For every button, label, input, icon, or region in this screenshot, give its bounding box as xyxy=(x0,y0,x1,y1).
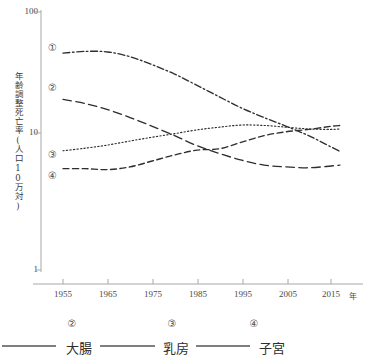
chart-root: 年齢調整死亡率(人口10万対) 100 10 1 1955 1965 1975 … xyxy=(0,0,365,358)
legend-label-colon: 大腸 xyxy=(58,338,100,357)
legend-label-uterus: 子宮 xyxy=(251,338,293,357)
legend-label-breast: 乳房 xyxy=(155,338,197,357)
chart-canvas xyxy=(0,0,365,358)
series-line-2 xyxy=(63,99,340,167)
series-group xyxy=(63,51,340,169)
series-line-1 xyxy=(63,51,340,151)
x-tick-marks xyxy=(63,279,331,284)
legend: ② ③ ④ 大腸 乳房 子宮 xyxy=(0,318,365,358)
